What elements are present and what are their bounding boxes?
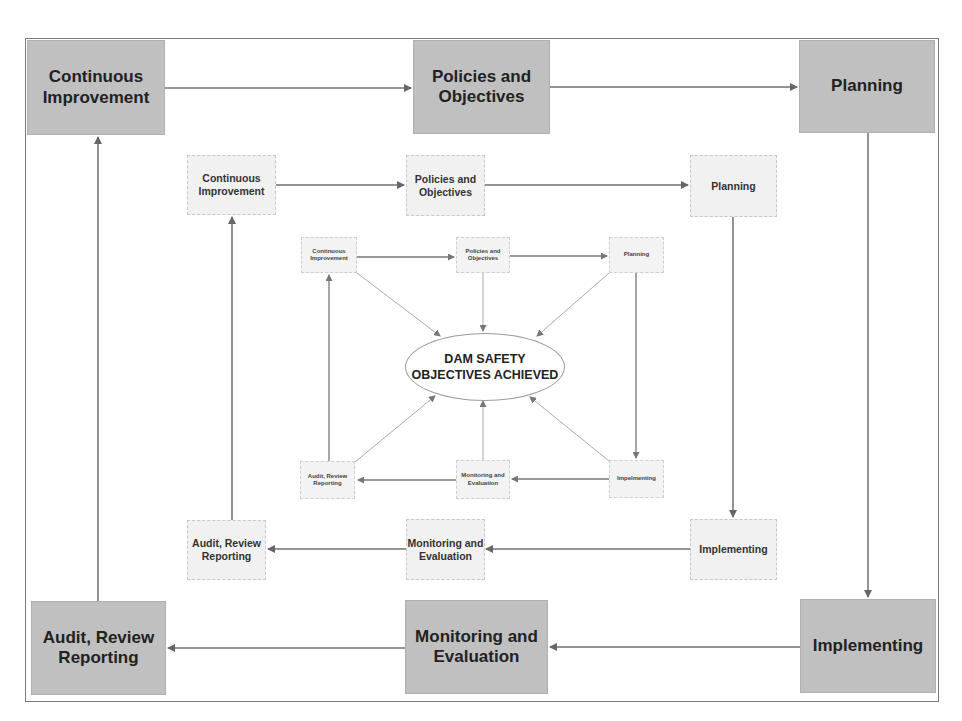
inner-implementing-box: Impelmenting <box>609 460 664 498</box>
center-goal-label: DAM SAFETY OBJECTIVES ACHIEVED <box>412 351 559 384</box>
middle-implementing-label: Implementing <box>699 543 767 556</box>
inner-monitoring-evaluation-box: Monitoring and Evaluation <box>456 460 510 499</box>
inner-planning-box: Planning <box>609 237 664 273</box>
outer-implementing-box: Implementing <box>800 599 936 693</box>
outer-continuous-improvement-label: Continuous Improvement <box>43 67 150 108</box>
outer-audit-review-box: Audit, Review Reporting <box>31 601 166 695</box>
middle-monitoring-evaluation-label: Monitoring and Evaluation <box>408 537 484 562</box>
middle-continuous-improvement-label: Continuous Improvement <box>199 172 265 197</box>
inner-audit-review-label: Audit, Review Reporting <box>308 473 347 487</box>
middle-monitoring-evaluation-box: Monitoring and Evaluation <box>406 519 485 580</box>
middle-audit-review-label: Audit, Review Reporting <box>192 537 261 562</box>
outer-monitoring-evaluation-label: Monitoring and Evaluation <box>415 627 538 668</box>
outer-implementing-label: Implementing <box>813 636 924 656</box>
outer-policies-objectives-label: Policies and Objectives <box>432 67 531 108</box>
outer-planning-label: Planning <box>831 76 903 96</box>
middle-planning-label: Planning <box>711 180 755 193</box>
inner-monitoring-evaluation-label: Monitoring and Evaluation <box>461 472 504 486</box>
outer-audit-review-label: Audit, Review Reporting <box>43 628 154 669</box>
middle-implementing-box: Implementing <box>690 519 777 580</box>
outer-policies-objectives-box: Policies and Objectives <box>413 40 550 134</box>
outer-continuous-improvement-box: Continuous Improvement <box>27 40 165 135</box>
inner-implementing-label: Impelmenting <box>617 475 656 482</box>
inner-continuous-improvement-box: Continuous Improvement <box>301 237 357 273</box>
middle-policies-objectives-box: Policies and Objectives <box>406 155 485 216</box>
outer-monitoring-evaluation-box: Monitoring and Evaluation <box>405 600 548 694</box>
center-goal-ellipse: DAM SAFETY OBJECTIVES ACHIEVED <box>405 333 565 401</box>
inner-audit-review-box: Audit, Review Reporting <box>300 461 355 499</box>
middle-continuous-improvement-box: Continuous Improvement <box>187 155 276 215</box>
middle-planning-box: Planning <box>690 155 777 217</box>
outer-planning-box: Planning <box>799 40 935 133</box>
inner-policies-objectives-box: Policies and Objectives <box>456 237 510 273</box>
inner-planning-label: Planning <box>624 251 649 258</box>
inner-continuous-improvement-label: Continuous Improvement <box>310 248 348 262</box>
inner-policies-objectives-label: Policies and Objectives <box>465 248 500 262</box>
middle-audit-review-box: Audit, Review Reporting <box>187 520 266 580</box>
middle-policies-objectives-label: Policies and Objectives <box>415 173 476 198</box>
